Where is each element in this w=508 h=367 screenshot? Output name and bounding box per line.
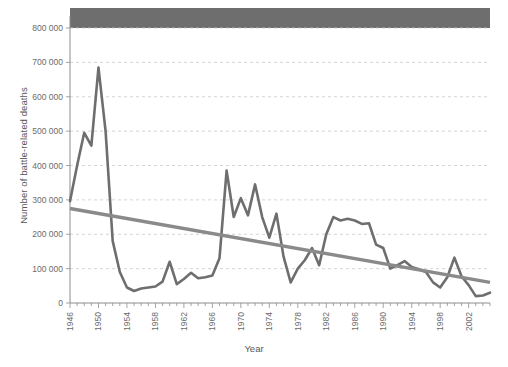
x-tick-label: 1946 [65, 312, 75, 331]
y-tick-label: 600 000 [32, 92, 63, 102]
x-tick-label: 1994 [407, 312, 417, 331]
x-tick-label: 1978 [293, 312, 303, 331]
y-tick-label: 0 [58, 298, 63, 308]
x-tick-label: 1974 [264, 312, 274, 331]
x-tick-label: 2002 [464, 312, 474, 331]
x-tick-label: 1958 [150, 312, 160, 331]
plot-area: 0100 000200 000300 000400 000500 000600 … [0, 0, 508, 367]
x-tick-label: 1970 [236, 312, 246, 331]
x-tick-label: 1954 [122, 312, 132, 331]
x-tick-label: 1990 [378, 312, 388, 331]
x-tick-label: 1986 [350, 312, 360, 331]
data-series [70, 68, 490, 297]
x-tick-label: 1982 [321, 312, 331, 331]
y-tick-label: 700 000 [32, 57, 63, 67]
x-tick-label: 1962 [179, 312, 189, 331]
y-tick-label: 100 000 [32, 264, 63, 274]
x-tick-label: 1966 [207, 312, 217, 331]
y-tick-label: 200 000 [32, 229, 63, 239]
x-tick-label: 1998 [435, 312, 445, 331]
x-tick-label: 1950 [93, 312, 103, 331]
y-tick-label: 300 000 [32, 195, 63, 205]
chart-figure: Number of battle-related deaths Year 010… [0, 0, 508, 367]
y-tick-label: 800 000 [32, 23, 63, 33]
axis-lines [70, 16, 490, 303]
y-axis-ticks: 0100 000200 000300 000400 000500 000600 … [32, 23, 70, 308]
y-tick-label: 400 000 [32, 161, 63, 171]
x-axis-ticks: 1946195019541958196219661970197419781982… [65, 303, 490, 331]
y-tick-label: 500 000 [32, 126, 63, 136]
